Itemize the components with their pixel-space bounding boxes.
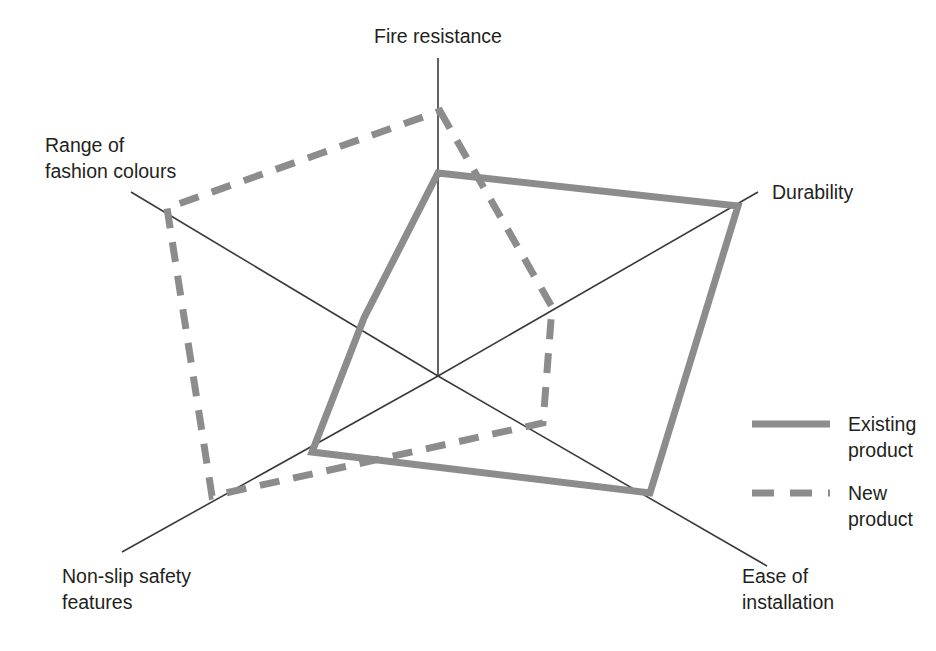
legend-label-new-product-line2: product xyxy=(848,508,914,530)
axis-label-non-slip-safety-features-line1: Non-slip safety xyxy=(62,565,191,587)
axis-label-fire-resistance: Fire resistance xyxy=(374,25,502,47)
axis-label-non-slip-safety-features-line2: features xyxy=(62,591,133,613)
legend-label-existing-product-line2: product xyxy=(848,439,914,461)
axis-label-range-of-fashion-colours-line1: Range of xyxy=(45,134,125,156)
axis-label-ease-of-installation-line1: Ease of xyxy=(742,565,809,587)
axis-label-range-of-fashion-colours-line2: fashion colours xyxy=(45,160,176,182)
axis-label-durability: Durability xyxy=(772,181,854,203)
axis-label-ease-of-installation-line2: installation xyxy=(742,591,834,613)
radar-chart-canvas: Fire resistance Durability Ease of insta… xyxy=(0,0,936,651)
radar-chart-figure: Fire resistance Durability Ease of insta… xyxy=(0,0,936,651)
legend-label-new-product-line1: New xyxy=(848,482,888,504)
chart-background xyxy=(0,0,936,651)
legend-label-existing-product-line1: Existing xyxy=(848,413,916,435)
